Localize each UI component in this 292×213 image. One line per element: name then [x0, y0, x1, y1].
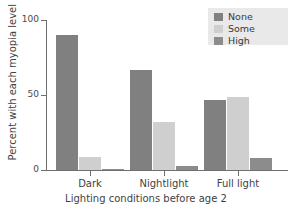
- legend-item-none: None: [214, 11, 288, 22]
- bar-full-light-high: [250, 158, 272, 170]
- bar-full-light-some: [227, 97, 249, 171]
- y-tick-0: [41, 170, 46, 171]
- bar-nightlight-high: [176, 166, 198, 171]
- legend-swatch-none: [214, 13, 223, 21]
- y-tick-label-0: 0: [14, 164, 39, 174]
- x-axis-title: Lighting conditions before age 2: [0, 193, 292, 204]
- bar-nightlight-none: [130, 70, 152, 171]
- x-tick-nightlight: [164, 171, 165, 176]
- legend-label-none: None: [228, 12, 253, 22]
- bar-dark-some: [79, 157, 101, 171]
- y-tick-label-100: 100: [14, 14, 39, 24]
- x-tick-label-full-light: Full light: [198, 178, 278, 189]
- y-axis-title: Percent with each myopia level: [7, 11, 18, 161]
- legend-label-high: High: [228, 36, 250, 46]
- x-tick-full-light: [238, 171, 239, 176]
- y-tick-label-50: 50: [14, 89, 39, 99]
- x-axis-line: [46, 170, 288, 171]
- x-tick-label-nightlight: Nightlight: [124, 178, 204, 189]
- bar-nightlight-some: [153, 122, 175, 170]
- bar-dark-none: [56, 35, 78, 170]
- legend-label-some: Some: [228, 24, 255, 34]
- chart-legend: None Some High: [208, 8, 288, 45]
- bar-full-light-none: [204, 100, 226, 171]
- legend-item-high: High: [214, 35, 288, 46]
- legend-item-some: Some: [214, 23, 288, 34]
- bar-chart-figure: 050100 DarkNightlightFull light Lighting…: [0, 0, 292, 213]
- legend-swatch-some: [214, 25, 223, 33]
- bar-dark-high: [102, 169, 124, 171]
- x-tick-label-dark: Dark: [50, 178, 130, 189]
- x-tick-dark: [90, 171, 91, 176]
- legend-swatch-high: [214, 37, 223, 45]
